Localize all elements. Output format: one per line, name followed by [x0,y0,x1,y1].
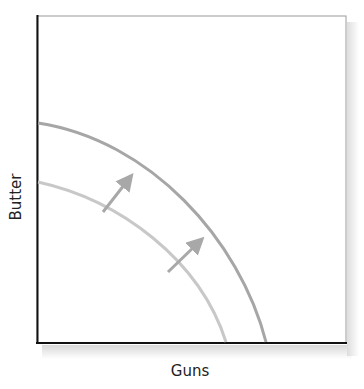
ppf-chart: Butter Guns [0,0,364,389]
y-axis-label: Butter [7,167,25,227]
x-axis-label: Guns [150,362,230,380]
frame-shadow-right [347,22,359,356]
plot-frame [37,16,346,343]
chart-canvas [0,0,364,389]
frame-shadow-bottom [42,345,352,359]
